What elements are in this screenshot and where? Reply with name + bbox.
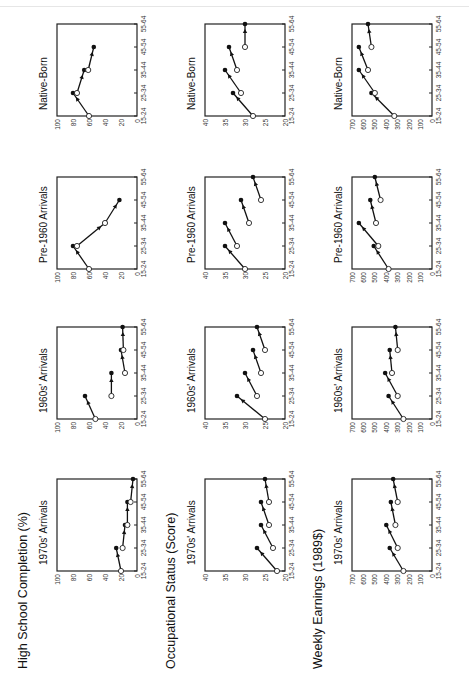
end-marker: [227, 45, 232, 50]
panel-title: 1970s' Arrivals: [38, 500, 49, 565]
end-marker: [389, 500, 394, 505]
x-tick-label: 55-64: [140, 168, 147, 185]
arrowhead-icon: [121, 332, 125, 336]
panel-title: Pre-1960 Arrivals: [333, 186, 344, 263]
end-marker: [384, 523, 389, 528]
change-arrow: [370, 200, 376, 223]
y-tick-label: 600: [360, 422, 367, 433]
start-marker: [86, 67, 91, 72]
start-marker: [401, 568, 406, 573]
x-tick-label: 25-34: [140, 387, 147, 404]
x-tick-label: 35-44: [288, 214, 295, 231]
panel-title: Native-Born: [186, 57, 197, 110]
change-arrow: [241, 200, 249, 223]
arrowhead-icon: [90, 52, 94, 56]
change-arrow: [359, 47, 368, 70]
change-arrow: [131, 479, 133, 502]
panel-0: 1970s' Arrivals202530354015-2425-3435-44…: [186, 470, 295, 581]
end-marker: [366, 22, 371, 27]
change-arrow: [225, 223, 237, 246]
x-tick-label: 55-64: [435, 15, 442, 32]
y-tick-label: 500: [371, 422, 378, 433]
end-marker: [251, 348, 256, 353]
x-tick-label: 15-24: [288, 562, 295, 579]
y-tick-label: 100: [417, 272, 424, 283]
start-marker: [365, 67, 370, 72]
y-tick-label: 100: [54, 119, 61, 130]
panel-title: Native-Born: [38, 57, 49, 110]
x-tick-label: 15-24: [288, 107, 295, 124]
end-marker: [391, 477, 396, 482]
y-tick-label: 60: [86, 272, 93, 280]
y-tick-label: 20: [118, 119, 125, 127]
start-marker: [86, 266, 91, 271]
start-marker: [395, 393, 400, 398]
start-marker: [262, 416, 267, 421]
y-tick-label: 35: [222, 574, 229, 582]
y-tick-label: 40: [202, 574, 209, 582]
end-marker: [109, 371, 114, 376]
start-marker: [395, 545, 400, 550]
panel-2: Pre-1960 Arrivals202530354015-2425-3435-…: [186, 168, 295, 279]
start-marker: [386, 266, 391, 271]
start-marker: [266, 522, 271, 527]
change-arrow: [245, 373, 257, 396]
x-tick-label: 35-44: [140, 364, 147, 381]
y-tick-label: 400: [383, 272, 390, 283]
y-tick-label: 40: [102, 119, 109, 127]
y-tick-label: 700: [349, 574, 356, 585]
x-tick-label: 15-24: [435, 562, 442, 579]
x-tick-label: 45-54: [435, 38, 442, 55]
end-marker: [223, 68, 228, 73]
change-arrow: [265, 479, 269, 502]
x-tick-label: 45-54: [140, 191, 147, 208]
end-marker: [223, 244, 228, 249]
y-tick-label: 200: [406, 119, 413, 130]
panel-title: 1970s' Arrivals: [333, 500, 344, 565]
panel-title: Pre-1960 Arrivals: [186, 186, 197, 263]
measure-row-1: Occupational Status (Score)1970s' Arriva…: [164, 15, 295, 669]
end-marker: [243, 22, 248, 27]
y-tick-label: 600: [360, 574, 367, 585]
change-arrow: [374, 246, 389, 269]
y-tick-label: 700: [349, 119, 356, 130]
y-tick-label: 300: [394, 422, 401, 433]
panel-1: 1960s' Arrivals010020030040050060070015-…: [333, 318, 442, 433]
end-marker: [120, 325, 125, 330]
start-marker: [234, 243, 239, 248]
change-arrow: [385, 373, 398, 396]
x-tick-label: 25-34: [435, 237, 442, 254]
arrowhead-icon: [125, 507, 129, 511]
y-tick-label: 100: [417, 119, 424, 130]
panel-2: Pre-1960 Arrivals02040608010015-2425-343…: [38, 168, 147, 283]
x-tick-label: 55-64: [140, 318, 147, 335]
x-tick-label: 45-54: [435, 191, 442, 208]
panel-title: Native-Born: [333, 57, 344, 110]
end-marker: [357, 221, 362, 226]
end-marker: [239, 198, 244, 203]
figure-root: High School Completion (%)1970s' Arrival…: [16, 15, 442, 669]
y-tick-label: 400: [383, 119, 390, 130]
change-arrow: [393, 479, 398, 502]
change-arrow: [391, 502, 396, 525]
arrowhead-icon: [122, 530, 126, 534]
y-tick-label: 300: [394, 272, 401, 283]
change-arrow: [257, 327, 265, 350]
x-tick-label: 15-24: [435, 260, 442, 277]
y-tick-label: 100: [54, 272, 61, 283]
y-tick-label: 20: [118, 422, 125, 430]
x-tick-label: 35-44: [288, 364, 295, 381]
start-marker: [118, 568, 123, 573]
start-marker: [250, 113, 255, 118]
x-tick-label: 45-54: [140, 38, 147, 55]
end-marker: [117, 198, 122, 203]
change-arrow: [261, 502, 269, 525]
start-marker: [120, 545, 125, 550]
y-tick-label: 400: [383, 422, 390, 433]
x-tick-label: 15-24: [288, 260, 295, 277]
end-marker: [393, 325, 398, 330]
y-tick-label: 35: [222, 119, 229, 127]
x-tick-label: 45-54: [140, 341, 147, 358]
x-tick-label: 25-34: [435, 387, 442, 404]
start-marker: [122, 370, 127, 375]
